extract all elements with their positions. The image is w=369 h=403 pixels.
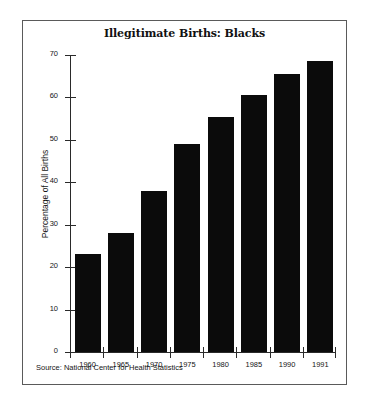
bar-group: 1960 — [71, 56, 104, 352]
x-axis-tick-label: 1985 — [237, 360, 270, 369]
y-axis-tick-label: 60 — [50, 91, 58, 100]
bar — [241, 95, 267, 352]
chart-title: Illegitimate Births: Blacks — [23, 27, 346, 40]
chart-figure: Illegitimate Births: Blacks Percentage o… — [22, 20, 347, 385]
bar-group: 1985 — [237, 56, 270, 352]
bar-series: 19601965197019751980198519901991 — [71, 56, 336, 352]
bar-group: 1970 — [138, 56, 171, 352]
bar — [208, 117, 234, 352]
y-axis-tick-label: 20 — [50, 261, 58, 270]
bar — [75, 254, 101, 352]
bar-group: 1991 — [304, 56, 337, 352]
y-axis-tick-label: 30 — [50, 219, 58, 228]
bar-group: 1965 — [104, 56, 137, 352]
bar — [307, 61, 333, 352]
x-axis-tick-label: 1991 — [304, 360, 337, 369]
source-note: Source: National Center for Health Stati… — [36, 363, 183, 372]
bar — [274, 74, 300, 352]
y-axis-tick-label: 50 — [50, 134, 58, 143]
bar-group: 1980 — [204, 56, 237, 352]
y-axis-label: Percentage of All Births — [40, 114, 50, 274]
x-axis-tick-label: 1990 — [271, 360, 304, 369]
y-axis-tick-label: 40 — [50, 176, 58, 185]
bar — [108, 233, 134, 352]
plot-area: 010203040506070 196019651970197519801985… — [70, 56, 336, 353]
bar-group: 1975 — [171, 56, 204, 352]
x-axis-tick-label: 1980 — [204, 360, 237, 369]
y-axis-tick-label: 70 — [50, 49, 58, 58]
y-axis-tick-label: 0 — [54, 346, 58, 355]
bar — [174, 144, 200, 352]
bar-group: 1990 — [271, 56, 304, 352]
y-axis-tick-label: 10 — [50, 304, 58, 313]
bar — [141, 191, 167, 352]
